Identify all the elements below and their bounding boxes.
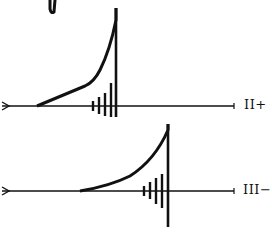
trace-label-bottom: III− <box>243 183 271 196</box>
rising-curve <box>37 8 116 106</box>
partial-glyph-top <box>50 0 55 13</box>
figure-canvas <box>0 0 272 234</box>
trace-label-top: II+ <box>244 98 267 111</box>
trace-top <box>2 8 234 117</box>
trace-bottom <box>2 124 234 227</box>
